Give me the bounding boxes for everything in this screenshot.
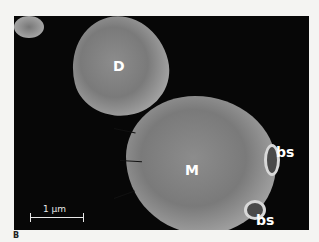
label-daughter: D	[113, 58, 125, 74]
panel-letter: B	[13, 231, 19, 240]
label-mother: M	[185, 162, 199, 178]
micrograph-panel: D M bs bs 1 μm	[14, 16, 309, 230]
bud-neck	[14, 16, 44, 38]
arrow-3	[114, 191, 135, 199]
scale-bar	[30, 217, 84, 218]
label-bud-scar-1: bs	[276, 144, 294, 160]
label-bud-scar-2: bs	[256, 212, 274, 228]
scale-bar-label: 1 μm	[43, 204, 66, 214]
